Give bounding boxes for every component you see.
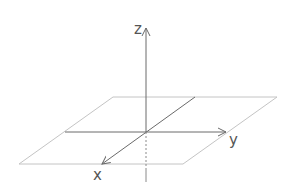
x-axis-label: x (93, 166, 102, 184)
axes-diagram: z y x (0, 0, 297, 195)
diagram-canvas: z y x (0, 0, 297, 195)
z-axis-label: z (134, 20, 142, 38)
y-axis-label: y (229, 131, 238, 149)
x-axis-line (102, 97, 195, 164)
